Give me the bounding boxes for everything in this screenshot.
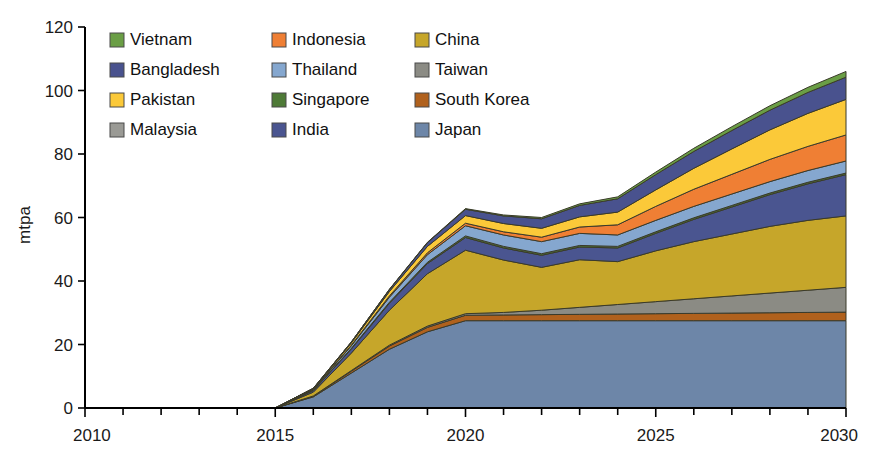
legend-item-china[interactable]: China <box>415 30 480 49</box>
legend-label: Japan <box>435 120 481 139</box>
y-axis-ticks <box>78 27 85 408</box>
legend-item-south-korea[interactable]: South Korea <box>415 90 530 109</box>
legend-swatch-icon <box>272 93 286 107</box>
legend-item-singapore[interactable]: Singapore <box>272 90 370 109</box>
legend-label: Pakistan <box>130 90 195 109</box>
legend-item-thailand[interactable]: Thailand <box>272 60 357 79</box>
legend-item-indonesia[interactable]: Indonesia <box>272 30 366 49</box>
x-axis-tick-labels: 20102015202020252030 <box>73 426 858 445</box>
y-tick-label: 100 <box>45 82 73 101</box>
legend-item-vietnam[interactable]: Vietnam <box>110 30 192 49</box>
legend-label: China <box>435 30 480 49</box>
legend-item-malaysia[interactable]: Malaysia <box>110 120 198 139</box>
legend-swatch-icon <box>415 33 429 47</box>
legend-label: Vietnam <box>130 30 192 49</box>
area-band-japan <box>85 321 846 408</box>
legend-label: Indonesia <box>292 30 366 49</box>
legend: VietnamIndonesiaChinaBangladeshThailandT… <box>110 30 530 139</box>
legend-label: India <box>292 120 329 139</box>
x-tick-label: 2030 <box>820 426 858 445</box>
legend-swatch-icon <box>110 93 124 107</box>
y-tick-label: 0 <box>64 399 73 418</box>
legend-label: Malaysia <box>130 120 198 139</box>
x-tick-label: 2020 <box>447 426 485 445</box>
y-tick-label: 80 <box>54 145 73 164</box>
legend-label: Thailand <box>292 60 357 79</box>
legend-item-japan[interactable]: Japan <box>415 120 481 139</box>
legend-swatch-icon <box>415 93 429 107</box>
legend-swatch-icon <box>110 33 124 47</box>
legend-item-taiwan[interactable]: Taiwan <box>415 60 488 79</box>
legend-swatch-icon <box>110 123 124 137</box>
legend-item-pakistan[interactable]: Pakistan <box>110 90 195 109</box>
y-tick-label: 60 <box>54 209 73 228</box>
y-axis-tick-labels: 020406080100120 <box>45 18 73 418</box>
stacked-area-chart: 020406080100120 20102015202020252030 mtp… <box>0 0 877 460</box>
legend-label: Taiwan <box>435 60 488 79</box>
y-tick-label: 40 <box>54 272 73 291</box>
x-tick-label: 2015 <box>256 426 294 445</box>
y-axis-title: mtpa <box>15 206 34 244</box>
legend-label: Bangladesh <box>130 60 220 79</box>
legend-swatch-icon <box>110 63 124 77</box>
x-tick-label: 2025 <box>637 426 675 445</box>
legend-label: South Korea <box>435 90 530 109</box>
legend-swatch-icon <box>272 33 286 47</box>
x-tick-label: 2010 <box>73 426 111 445</box>
legend-item-bangladesh[interactable]: Bangladesh <box>110 60 220 79</box>
legend-swatch-icon <box>415 63 429 77</box>
legend-swatch-icon <box>415 123 429 137</box>
y-tick-label: 120 <box>45 18 73 37</box>
legend-label: Singapore <box>292 90 370 109</box>
chart-canvas: 020406080100120 20102015202020252030 mtp… <box>0 0 877 460</box>
x-axis-ticks <box>85 408 846 417</box>
legend-swatch-icon <box>272 63 286 77</box>
y-tick-label: 20 <box>54 336 73 355</box>
legend-swatch-icon <box>272 123 286 137</box>
legend-item-india[interactable]: India <box>272 120 329 139</box>
